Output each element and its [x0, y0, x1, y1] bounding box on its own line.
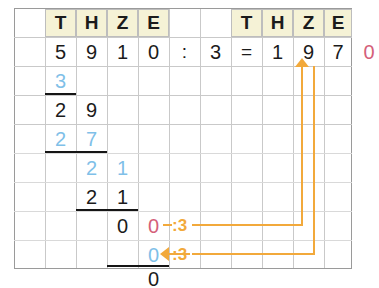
- division-sign: :: [169, 37, 200, 66]
- place-value-header-T-right: T: [231, 9, 262, 37]
- work-digit-r1c0: 3: [45, 66, 76, 95]
- annotation-line-bottom-horizontal: [192, 253, 315, 255]
- work-digit-r3c0: 2: [45, 124, 76, 153]
- divide-label-top: :3: [172, 217, 187, 234]
- equals-sign: =: [231, 37, 262, 66]
- dividend-digit-2: 9: [76, 37, 107, 66]
- quotient-digit-1: 1: [262, 37, 293, 66]
- work-digit-r3c1: 7: [76, 124, 107, 153]
- place-value-header-H-right: H: [262, 9, 293, 37]
- place-value-header-Z-right: Z: [293, 9, 324, 37]
- annotation-line-bottom-vertical: [313, 66, 315, 255]
- divisor-digit: 3: [200, 37, 231, 66]
- annotation-line-arrow-left: [168, 253, 190, 255]
- grid-line-v: [14, 8, 15, 269]
- dividend-digit-1: 5: [45, 37, 76, 66]
- annotation-line-top-horizontal: [192, 224, 303, 226]
- place-value-header-Z-left: Z: [107, 9, 138, 37]
- work-digit-r5c2: 1: [107, 182, 138, 211]
- grid-line-h: [14, 240, 352, 241]
- work-digit-r6c2: 0: [107, 211, 138, 240]
- work-digit-r4c2: 1: [107, 153, 138, 182]
- arrow-left-icon: [160, 247, 169, 261]
- dividend-digit-4: 0: [138, 37, 169, 66]
- work-digit-r2c0: 2: [45, 95, 76, 124]
- dividend-digit-3: 1: [107, 37, 138, 66]
- quotient-digit-3: 7: [324, 37, 352, 66]
- work-digit-r8c3: 0: [138, 266, 169, 288]
- work-digit-r2c1: 9: [76, 95, 107, 124]
- work-digit-r5c1: 2: [76, 182, 107, 211]
- quotient-digit-4: 0: [355, 37, 379, 66]
- place-value-header-E-left: E: [138, 9, 169, 37]
- place-value-header-E-right: E: [324, 9, 352, 37]
- work-digit-r4c1: 2: [76, 153, 107, 182]
- grid-line-h: [14, 268, 352, 269]
- place-value-header-T-left: T: [45, 9, 76, 37]
- arrow-up-icon: [295, 58, 309, 67]
- place-value-header-H-left: H: [76, 9, 107, 37]
- annotation-line-top-stub: [163, 224, 172, 226]
- annotation-line-top-vertical: [301, 66, 303, 226]
